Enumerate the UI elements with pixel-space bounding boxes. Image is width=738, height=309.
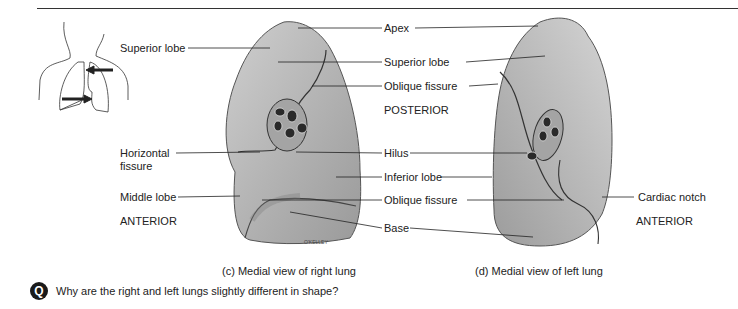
label-apex: Apex [384,22,409,34]
signature: O'KELLEY [304,239,328,245]
question-row: Q Why are the right and left lungs sligh… [30,282,338,300]
label-superior-lobe: Superior lobe [384,56,449,68]
caption-left-lung: (d) Medial view of left lung [475,265,603,277]
label-superior-lobe-right: Superior lobe [120,42,185,54]
question-text: Why are the right and left lungs slightl… [56,285,338,297]
question-icon: Q [30,282,48,300]
label-oblique-fissure-top: Oblique fissure [384,80,457,92]
label-anterior-right: ANTERIOR [120,215,177,227]
label-anterior-left: ANTERIOR [636,215,693,227]
label-hilus: Hilus [384,147,408,159]
right-lung [226,22,361,244]
label-base: Base [384,222,409,234]
label-inferior-lobe: Inferior lobe [384,171,442,183]
arrow-icons [62,66,113,103]
label-middle-lobe: Middle lobe [120,191,176,203]
caption-right-lung: (c) Medial view of right lung [222,265,356,277]
left-lung [493,18,612,246]
label-posterior: POSTERIOR [384,104,449,116]
label-cardiac-notch: Cardiac notch [638,191,706,203]
label-horizontal-fissure-1: Horizontal [120,147,170,159]
label-horizontal-fissure-2: fissure [120,160,152,172]
label-oblique-fissure-bottom: Oblique fissure [384,194,457,206]
lungs-illustration: O'KELLEY [0,0,738,309]
